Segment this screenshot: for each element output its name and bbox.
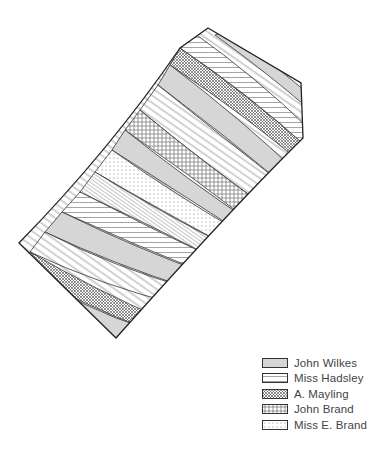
pattern-swatch-icon	[262, 420, 288, 430]
legend: John Wilkes Miss Hadsley A. Mayling John…	[262, 355, 367, 433]
legend-label: Miss E. Brand	[294, 419, 367, 431]
legend-label: John Brand	[294, 403, 354, 415]
pattern-swatch-icon	[262, 389, 288, 399]
legend-label: A. Mayling	[294, 388, 349, 400]
pattern-swatch-icon	[262, 358, 288, 368]
legend-item-miss-e-brand: Miss E. Brand	[262, 417, 367, 433]
legend-item-john-brand: John Brand	[262, 402, 367, 418]
pattern-swatch-icon	[262, 373, 288, 383]
legend-item-john-wilkes: John Wilkes	[262, 355, 367, 371]
legend-label: John Wilkes	[294, 357, 357, 369]
pattern-swatch-icon	[262, 404, 288, 414]
legend-item-a-mayling: A. Mayling	[262, 386, 367, 402]
legend-item-miss-hadsley: Miss Hadsley	[262, 371, 367, 387]
legend-label: Miss Hadsley	[294, 372, 364, 384]
